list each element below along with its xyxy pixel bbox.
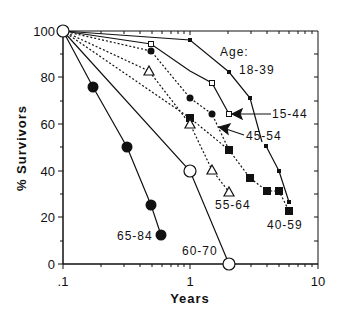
label-18-39: 18-39	[239, 63, 275, 77]
label-40-59: 40-59	[267, 218, 303, 232]
svg-text:20: 20	[41, 210, 55, 225]
x-axis-title: Years	[170, 291, 210, 306]
line-40-59	[63, 31, 289, 211]
svg-text:.1: .1	[58, 274, 69, 289]
label-65-84: 65-84	[117, 229, 153, 243]
svg-text:0: 0	[48, 257, 55, 272]
svg-text:60: 60	[41, 117, 55, 132]
label-60-70: 60-70	[182, 244, 218, 258]
line-55-64	[63, 31, 229, 192]
label-55-64: 55-64	[215, 198, 251, 212]
svg-text:40: 40	[41, 164, 55, 179]
line-45-54	[63, 31, 229, 150]
svg-text:100: 100	[33, 24, 55, 39]
x-axis-ticks	[63, 31, 318, 269]
svg-text:1: 1	[186, 274, 193, 289]
label-45-54: 45-54	[246, 129, 282, 143]
svg-text:10: 10	[311, 274, 325, 289]
y-tick-labels: 100 80 60 40 20 0	[33, 24, 55, 272]
x-tick-labels: .1 1 10	[58, 274, 326, 289]
survival-chart: 100 80 60 40 20 0 .1 1 10 Years % Surviv…	[0, 0, 342, 312]
y-axis-title: % Survivors	[14, 105, 29, 191]
legend-title: Age:	[220, 45, 249, 59]
label-15-44: 15-44	[272, 107, 308, 121]
svg-text:80: 80	[41, 70, 55, 85]
